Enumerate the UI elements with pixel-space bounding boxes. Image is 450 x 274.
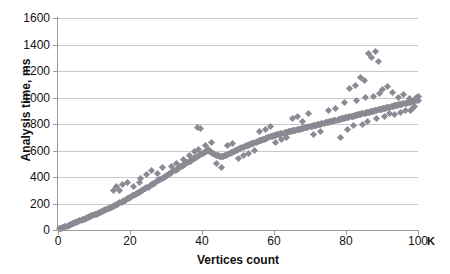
data-point	[197, 125, 204, 132]
data-point	[137, 175, 144, 182]
data-point	[344, 126, 351, 133]
scatter-chart: Analysis time, ms Vertices count K 02004…	[0, 0, 450, 274]
y-axis-tick-label: 800	[4, 118, 50, 130]
y-axis-line	[57, 17, 58, 231]
data-point	[317, 128, 324, 135]
y-axis-tick-label: 1400	[4, 39, 50, 51]
data-point	[368, 54, 375, 61]
y-axis-tick-label: 1600	[4, 12, 50, 24]
data-point	[324, 107, 331, 114]
x-axis-tick-label: 60	[254, 235, 294, 247]
x-axis-tick-label: 0	[38, 235, 78, 247]
gridline	[58, 18, 418, 19]
gridline	[58, 71, 418, 72]
plot-area	[58, 18, 418, 230]
y-axis-tick-label: 600	[4, 145, 50, 157]
x-axis-tick-label: 40	[182, 235, 222, 247]
data-point	[218, 164, 225, 171]
data-point	[159, 164, 166, 171]
y-axis-tick-label: 1200	[4, 65, 50, 77]
x-axis-tick-label: 80	[326, 235, 366, 247]
gridline	[58, 177, 418, 178]
data-point	[332, 105, 339, 112]
y-axis-tick-label: 1000	[4, 92, 50, 104]
y-axis-tick-label: 400	[4, 171, 50, 183]
data-point	[310, 131, 317, 138]
data-point	[337, 134, 344, 141]
chart-title	[0, 0, 450, 8]
data-point	[389, 89, 396, 96]
data-point	[372, 48, 379, 55]
x-axis-title: Vertices count	[58, 253, 418, 267]
gridline	[58, 45, 418, 46]
y-axis-tick-label: 200	[4, 198, 50, 210]
data-point	[373, 115, 380, 122]
x-axis-tick-label: 20	[110, 235, 150, 247]
x-axis-tick-label: 100	[398, 235, 438, 247]
data-point	[375, 58, 382, 65]
data-point	[341, 99, 348, 106]
data-point	[305, 110, 312, 117]
data-point	[350, 122, 357, 129]
x-axis-line	[57, 230, 419, 231]
data-point	[362, 94, 369, 101]
